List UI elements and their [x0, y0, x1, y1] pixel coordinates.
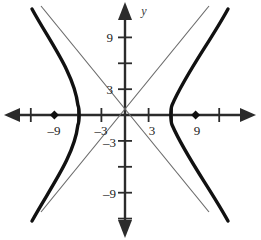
- y-axis-bottom-arrowhead: [118, 220, 132, 238]
- coordinate-plane-svg: y –9 –3 3 9 9 3 –3 –9: [0, 0, 261, 240]
- x-axis-right-arrowhead: [240, 108, 256, 122]
- x-axis-left-arrowhead: [4, 108, 20, 122]
- x-tick-label-pos9: 9: [194, 123, 201, 138]
- hyperbola-graph-figure: y –9 –3 3 9 9 3 –3 –9: [0, 0, 261, 240]
- focus-marker-right: [191, 111, 200, 120]
- y-axis-label: y: [140, 4, 147, 18]
- focus-marker-left: [50, 111, 59, 120]
- x-tick-label-pos3: 3: [149, 123, 156, 138]
- y-tick-label-pos3: 3: [107, 82, 114, 97]
- x-tick-label-neg9: –9: [47, 123, 61, 138]
- y-tick-label-pos9: 9: [107, 30, 114, 45]
- y-tick-label-neg9: –9: [102, 186, 116, 201]
- y-axis-top-arrowhead: [118, 2, 132, 20]
- y-tick-label-neg3: –3: [102, 135, 116, 150]
